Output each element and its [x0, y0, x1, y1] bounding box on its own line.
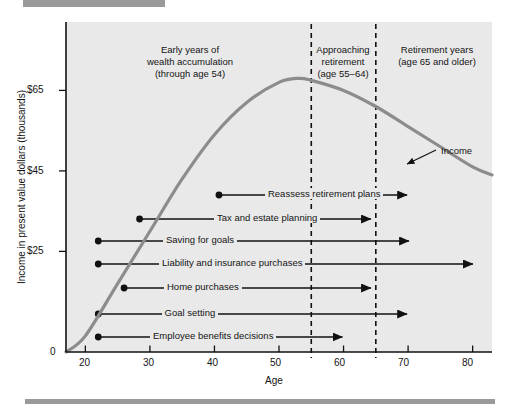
figure-root: Income in present value dollars (thousan…: [0, 0, 518, 413]
zone-retirement-line-1: Retirement years: [383, 44, 491, 56]
zone-label-approaching-retirement: Approaching retirement (age 55–64): [311, 44, 375, 79]
x-axis-title: Age: [265, 375, 283, 386]
zone-early-line-2: wealth accumulation: [130, 56, 250, 68]
x-tick-label-30: 30: [143, 357, 154, 368]
task-start-marker-3: [95, 261, 102, 268]
task-label-tax-and-estate-planning: Tax and estate planning: [214, 212, 320, 223]
zone-early-line-1: Early years of: [130, 44, 250, 56]
zone-label-early-years: Early years of wealth accumulation (thro…: [130, 44, 250, 79]
task-start-marker-2: [95, 238, 102, 245]
y-tick-label-0: 0: [50, 346, 56, 357]
x-tick-label-60: 60: [334, 357, 345, 368]
task-start-marker-1: [136, 216, 143, 223]
zone-early-line-3: (through age 54): [130, 68, 250, 80]
series-annotation-income: Income: [441, 145, 472, 156]
x-tick-label-80: 80: [462, 357, 473, 368]
y-tick-label-65: $65: [27, 84, 44, 95]
zone-approaching-line-1: Approaching: [311, 44, 375, 56]
task-start-marker-6: [95, 334, 102, 341]
task-label-liability-and-insurance-purchases: Liability and insurance purchases: [159, 257, 305, 268]
x-tick-label-20: 20: [79, 357, 90, 368]
x-tick-label-70: 70: [398, 357, 409, 368]
zone-label-retirement-years: Retirement years (age 65 and older): [383, 44, 491, 68]
zone-approaching-line-2: retirement: [311, 56, 375, 68]
task-label-reassess-retirement-plans: Reassess retirement plans: [265, 188, 383, 199]
task-label-goal-setting: Goal setting: [162, 307, 219, 318]
chart-area: Income in present value dollars (thousan…: [0, 0, 518, 413]
task-label-home-purchases: Home purchases: [164, 281, 242, 292]
x-tick-label-50: 50: [270, 357, 281, 368]
task-start-marker-4: [121, 285, 128, 292]
task-label-saving-for-goals: Saving for goals: [163, 234, 237, 245]
y-tick-label-45: $45: [27, 165, 44, 176]
task-start-marker-0: [216, 192, 223, 199]
task-label-employee-benefits-decisions: Employee benefits decisions: [150, 330, 276, 341]
zone-retirement-line-2: (age 65 and older): [383, 56, 491, 68]
zone-approaching-line-3: (age 55–64): [311, 68, 375, 80]
y-axis-title: Income in present value dollars (thousan…: [16, 90, 27, 284]
x-tick-label-40: 40: [207, 357, 218, 368]
y-tick-label-25: $25: [27, 245, 44, 256]
